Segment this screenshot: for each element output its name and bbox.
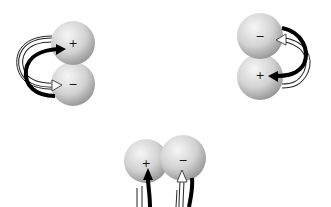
minus-sign: −	[178, 154, 187, 167]
plus-sign: +	[255, 69, 264, 82]
black-up-arrow-icon	[148, 178, 150, 207]
panel-top-right: − +	[237, 13, 308, 100]
plus-sign: +	[141, 157, 150, 170]
panel-top-left: + −	[17, 21, 95, 106]
plus-sign: +	[68, 37, 77, 50]
minus-sign: −	[255, 30, 264, 43]
panel-bottom: + −	[124, 135, 206, 207]
minus-sign: −	[68, 78, 77, 91]
dipole-diagram: + − − + + −	[0, 0, 331, 207]
